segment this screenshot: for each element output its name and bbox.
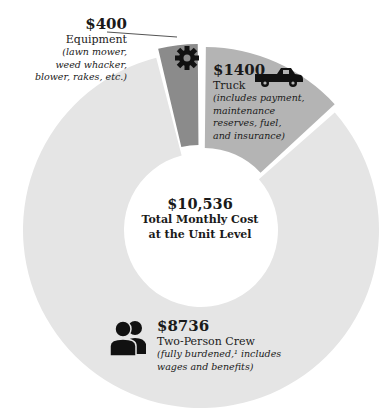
truck-note-2: maintenance [213, 105, 323, 118]
crew-amount: $8736 [157, 318, 327, 335]
equipment-note-1: (lawn mower, [7, 46, 127, 59]
truck-label: $1400 Truck (includes payment, maintenan… [213, 62, 323, 142]
equipment-name: Equipment [7, 33, 127, 46]
total-label: $10,536 Total Monthly Cost at the Unit L… [125, 195, 275, 242]
crew-label: $8736 Two-Person Crew (fully burdened,¹ … [157, 318, 327, 373]
total-caption-2: at the Unit Level [125, 227, 275, 242]
gear-icon [175, 46, 199, 70]
crew-note-1: (fully burdened,¹ includes [157, 348, 327, 361]
total-caption-1: Total Monthly Cost [125, 212, 275, 227]
truck-name: Truck [213, 79, 323, 92]
total-amount: $10,536 [125, 195, 275, 212]
equipment-label: $400 Equipment (lawn mower, weed whacker… [7, 16, 127, 84]
equipment-note-3: blower, rakes, etc.) [7, 71, 127, 84]
truck-amount: $1400 [213, 62, 323, 79]
crew-note-2: wages and benefits) [157, 361, 327, 374]
equipment-amount: $400 [7, 16, 127, 33]
crew-name: Two-Person Crew [157, 335, 327, 348]
truck-note-1: (includes payment, [213, 92, 323, 105]
equipment-note-2: weed whacker, [7, 59, 127, 72]
truck-note-3: reserves, fuel, [213, 117, 323, 130]
truck-note-4: and insurance) [213, 130, 323, 143]
